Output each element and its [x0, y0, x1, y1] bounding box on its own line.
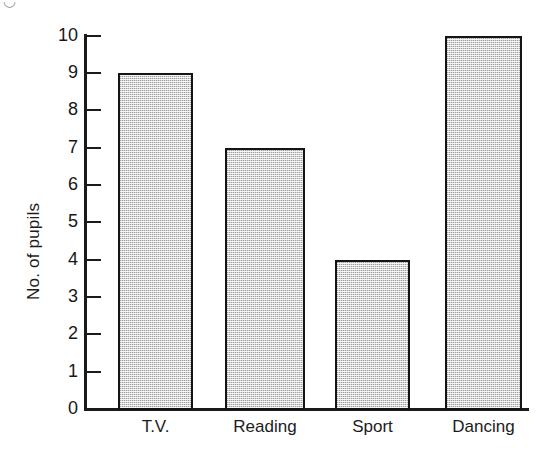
y-axis-tick-5 — [86, 221, 101, 223]
y-axis-tick-label-9: 9 — [46, 63, 78, 81]
y-axis-tick-label-text: 4 — [50, 250, 78, 268]
bar-sport — [335, 260, 410, 410]
y-axis-tick-label-8: 8 — [46, 100, 78, 118]
bar-chart: ◡ No. of pupils 012345678910 T.V.Reading… — [0, 0, 544, 452]
x-axis-label-sport: Sport — [335, 415, 410, 439]
y-axis-tick-label-text: 7 — [50, 138, 78, 156]
y-axis-tick-label-10: 10 — [46, 26, 78, 44]
y-axis-tick-label-text: 8 — [50, 100, 78, 118]
y-axis-tick-label-1: 1 — [46, 362, 78, 380]
y-axis-tick-2 — [86, 333, 101, 335]
x-axis-label-reading: Reading — [225, 415, 305, 439]
y-axis-tick-label-3: 3 — [46, 287, 78, 305]
y-axis-tick-label-text: 6 — [50, 175, 78, 193]
y-axis-tick-label-0: 0 — [46, 399, 78, 417]
y-axis-tick-6 — [86, 184, 101, 186]
y-axis-tick-label-2: 2 — [46, 324, 78, 342]
y-axis-tick-label-6: 6 — [46, 175, 78, 193]
y-axis-tick-label-4: 4 — [46, 250, 78, 268]
x-axis-label-t-v: T.V. — [118, 415, 193, 439]
y-axis-tick-label-text: 0 — [50, 399, 78, 417]
y-axis-tick-7 — [86, 147, 101, 149]
y-axis-tick-3 — [86, 296, 101, 298]
y-axis-tick-1 — [86, 371, 101, 373]
scan-artifact-mark: ◡ — [3, 0, 16, 8]
y-axis-tick-8 — [86, 109, 101, 111]
bar-dancing — [445, 36, 522, 411]
y-axis-tick-label-text: 2 — [50, 324, 78, 342]
y-axis-tick-label-7: 7 — [46, 138, 78, 156]
y-axis-tick-4 — [86, 259, 101, 261]
bar-reading — [225, 148, 305, 410]
y-axis-tick-label-text: 3 — [50, 287, 78, 305]
y-axis-tick-9 — [86, 72, 101, 74]
y-axis-tick-label-text: 5 — [50, 212, 78, 230]
y-axis-tick-label-text: 1 — [50, 362, 78, 380]
y-axis-tick-label-text: 10 — [50, 26, 78, 44]
y-axis-tick-0 — [86, 408, 101, 410]
y-axis-tick-label-text: 9 — [50, 63, 78, 81]
y-axis-tick-label-5: 5 — [46, 212, 78, 230]
y-axis-tick-10 — [86, 35, 101, 37]
x-axis-label-dancing: Dancing — [445, 415, 522, 439]
bar-t-v — [118, 73, 193, 410]
